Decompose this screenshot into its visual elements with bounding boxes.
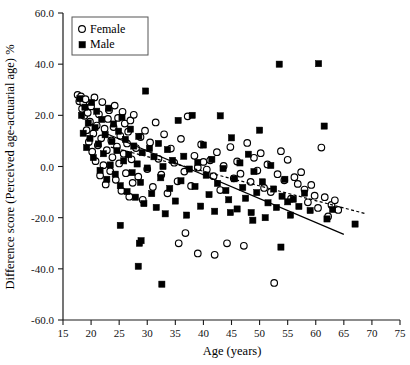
data-point-female: [178, 136, 185, 143]
data-point-male: [178, 178, 184, 184]
data-point-female: [142, 127, 149, 134]
data-point-female: [278, 148, 285, 155]
x-tick-label: 25: [114, 327, 126, 339]
data-point-male: [94, 108, 100, 114]
data-point-male: [209, 156, 215, 162]
data-point-female: [152, 119, 159, 126]
data-point-female: [332, 197, 339, 204]
y-tick-label: -40.0: [31, 263, 54, 275]
data-point-male: [77, 96, 83, 102]
data-point-male: [87, 135, 93, 141]
y-tick-label: 60.0: [35, 7, 55, 19]
data-point-female: [315, 205, 322, 212]
x-tick-label: 40: [198, 327, 210, 339]
data-point-male: [159, 281, 165, 287]
x-tick-label: 45: [226, 327, 238, 339]
data-point-male: [192, 183, 198, 189]
data-point-male: [290, 196, 296, 202]
data-point-male: [206, 192, 212, 198]
legend-marker-female-icon: [79, 26, 86, 33]
x-tick-label: 20: [86, 327, 98, 339]
legend-label-male: Male: [90, 37, 115, 51]
data-point-male: [321, 123, 327, 129]
data-point-male: [119, 114, 125, 120]
data-point-female: [191, 152, 198, 159]
data-point-male: [78, 112, 84, 118]
data-point-male: [83, 144, 89, 150]
data-point-male: [85, 120, 91, 126]
data-point-male: [80, 130, 86, 136]
y-tick-label: -60.0: [31, 314, 54, 326]
data-point-male: [200, 142, 206, 148]
data-point-male: [240, 184, 246, 190]
data-point-male: [324, 216, 330, 222]
data-point-male: [95, 141, 101, 147]
data-point-male: [102, 132, 108, 138]
data-point-male: [135, 263, 141, 269]
data-point-male: [228, 135, 234, 141]
data-point-female: [257, 150, 264, 157]
y-tick-label: -20.0: [31, 212, 54, 224]
data-point-male: [276, 61, 282, 67]
data-point-male: [242, 195, 248, 201]
data-point-male: [248, 209, 254, 215]
data-point-female: [284, 157, 291, 164]
data-point-female: [224, 240, 231, 247]
data-point-male: [158, 175, 164, 181]
data-point-male: [100, 151, 106, 157]
y-tick-label: 0.0: [40, 161, 54, 173]
data-point-male: [251, 169, 257, 175]
data-point-male: [250, 217, 256, 223]
data-point-male: [301, 190, 307, 196]
data-point-male: [189, 112, 195, 118]
data-point-male: [127, 126, 133, 132]
data-point-male: [126, 152, 132, 158]
data-point-male: [89, 99, 95, 105]
data-point-female: [227, 144, 234, 151]
data-point-female: [261, 185, 268, 192]
y-tick-label: 40.0: [35, 58, 55, 70]
data-point-male: [315, 61, 321, 67]
data-point-male: [105, 105, 111, 111]
data-point-female: [237, 170, 244, 177]
data-point-male: [352, 221, 358, 227]
data-point-male: [90, 154, 96, 160]
data-point-male: [155, 140, 161, 146]
data-point-female: [150, 184, 157, 191]
data-point-male: [92, 125, 98, 131]
data-point-female: [195, 250, 202, 257]
data-point-male: [296, 203, 302, 209]
data-point-female: [244, 140, 251, 147]
data-point-male: [97, 167, 103, 173]
x-tick-label: 55: [282, 327, 294, 339]
data-point-male: [132, 194, 138, 200]
data-point-male: [138, 238, 144, 244]
data-point-female: [318, 144, 325, 151]
data-point-male: [223, 187, 229, 193]
data-point-female: [298, 169, 305, 176]
data-point-male: [107, 162, 113, 168]
data-point-female: [111, 102, 118, 109]
data-point-male: [137, 179, 143, 185]
data-point-female: [294, 181, 301, 188]
data-point-male: [212, 208, 218, 214]
data-point-female: [214, 149, 221, 156]
x-axis-title: Age (years): [203, 344, 262, 358]
data-point-male: [279, 193, 285, 199]
data-point-male: [278, 244, 284, 250]
x-tick-label: 75: [395, 327, 407, 339]
y-axis-title: Difference score (Perceived age-actuaria…: [3, 44, 17, 289]
data-point-female: [109, 154, 116, 161]
data-point-male: [245, 151, 251, 157]
data-point-male: [167, 185, 173, 191]
data-point-male: [220, 165, 226, 171]
data-point-male: [124, 188, 130, 194]
data-point-male: [134, 161, 140, 167]
data-point-female: [101, 125, 108, 132]
data-point-male: [256, 127, 262, 133]
data-point-female: [99, 99, 106, 106]
data-point-male: [142, 88, 148, 94]
data-point-male: [121, 158, 127, 164]
data-point-male: [153, 204, 159, 210]
data-point-male: [136, 133, 142, 139]
